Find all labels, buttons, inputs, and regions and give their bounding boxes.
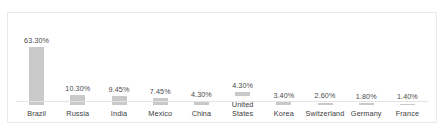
bar[interactable] <box>359 103 374 105</box>
bar[interactable] <box>318 103 333 105</box>
bar-value-label: 1.80% <box>356 93 377 100</box>
x-axis-line <box>16 101 428 102</box>
category-label: India <box>111 109 127 118</box>
category-label: Russia <box>66 109 89 118</box>
category-label: France <box>396 109 419 118</box>
bar-value-label: 2.60% <box>315 92 336 99</box>
bar-value-label: 4.30% <box>191 91 212 98</box>
bar-stack: 1.80% <box>346 24 387 105</box>
category-label: Switzerland <box>306 109 345 118</box>
bar-slot[interactable]: 63.30% Brazil <box>16 17 57 118</box>
bar-stack: 3.40% <box>263 24 304 105</box>
category-label: Germany <box>351 109 382 118</box>
bar-slot[interactable]: 2.60% Switzerland <box>304 17 345 118</box>
bar[interactable] <box>29 47 44 105</box>
bar-value-label: 10.30% <box>65 85 90 92</box>
bar-value-label: 63.30% <box>24 37 49 44</box>
bar-stack: 10.30% <box>57 24 98 105</box>
bar[interactable] <box>400 104 415 105</box>
bar[interactable] <box>235 92 250 96</box>
bar-stack: 9.45% <box>98 24 139 105</box>
bar-stack: 1.40% <box>387 24 428 105</box>
bar-slot[interactable]: 9.45% India <box>98 17 139 118</box>
bar-value-label: 4.30% <box>232 82 253 89</box>
bar-stack: 63.30% <box>16 24 57 105</box>
chart-card: 63.30% Brazil 10.30% Russia 9.45% India <box>7 12 437 123</box>
category-label: Brazil <box>27 109 46 118</box>
bar-stack: 4.30% <box>222 17 263 96</box>
bar-slot[interactable]: 4.30% China <box>181 17 222 118</box>
category-label: United States <box>232 100 254 118</box>
category-label: China <box>192 109 212 118</box>
bar-value-label: 7.45% <box>150 88 171 95</box>
bar-chart-figure: 63.30% Brazil 10.30% Russia 9.45% India <box>0 0 448 136</box>
category-label: Mexico <box>148 109 172 118</box>
bar-slot[interactable]: 3.40% Korea <box>263 17 304 118</box>
bar-value-label: 1.40% <box>397 93 418 100</box>
bar-slot[interactable]: 10.30% Russia <box>57 17 98 118</box>
bar-stack: 2.60% <box>304 24 345 105</box>
bar-stack: 4.30% <box>181 24 222 105</box>
bar-value-label: 9.45% <box>109 86 130 93</box>
bar-stack: 7.45% <box>140 24 181 105</box>
bar-slot[interactable]: 1.80% Germany <box>346 17 387 118</box>
bar-slot[interactable]: 7.45% Mexico <box>140 17 181 118</box>
bar-slot[interactable]: 4.30% United States <box>222 17 263 118</box>
bar-slot[interactable]: 1.40% France <box>387 17 428 118</box>
bar[interactable] <box>276 102 291 105</box>
plot-area: 63.30% Brazil 10.30% Russia 9.45% India <box>16 17 428 118</box>
category-label: Korea <box>274 109 294 118</box>
bar-value-label: 3.40% <box>273 92 294 99</box>
